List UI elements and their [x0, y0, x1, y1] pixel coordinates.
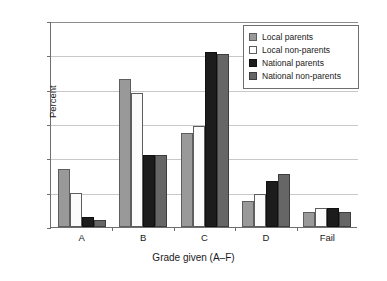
x-tick-mark: [235, 227, 236, 231]
legend-label: Local parents: [262, 33, 313, 42]
y-tick-mark: [47, 228, 51, 229]
bar-group: [112, 21, 173, 227]
bar: [217, 54, 229, 227]
x-tick-mark: [297, 227, 298, 231]
legend-item: National non-parents: [249, 70, 353, 82]
legend-swatch-icon: [249, 33, 257, 41]
chart-legend: Local parentsLocal non-parentsNational p…: [243, 25, 359, 89]
legend-item: National parents: [249, 57, 353, 69]
legend-label: National parents: [262, 59, 324, 68]
x-tick-mark: [112, 227, 113, 231]
x-tick-label: D: [236, 232, 296, 243]
x-axis-title: Grade given (A–F): [0, 252, 387, 263]
x-tick-label: Fail: [297, 232, 357, 243]
bar: [278, 174, 290, 227]
bar: [205, 52, 217, 227]
bar: [143, 155, 155, 227]
x-tick-label: A: [52, 232, 112, 243]
bar: [242, 201, 254, 227]
bar: [315, 208, 327, 227]
legend-item: Local non-parents: [249, 44, 353, 56]
x-tick-label: B: [113, 232, 173, 243]
legend-swatch-icon: [249, 72, 257, 80]
bar: [254, 194, 266, 227]
bar: [303, 212, 315, 227]
bar: [155, 155, 167, 227]
bar: [70, 193, 82, 227]
bar: [94, 220, 106, 227]
bar-group: [51, 21, 112, 227]
legend-item: Local parents: [249, 31, 353, 43]
bar: [266, 181, 278, 227]
bar: [58, 169, 70, 227]
bar: [119, 79, 131, 227]
legend-swatch-icon: [249, 46, 257, 54]
bar-chart: 0102030405060 Percent ABCDFail Grade giv…: [0, 0, 387, 281]
bar-group: [174, 21, 235, 227]
bar: [193, 126, 205, 227]
legend-label: National non-parents: [262, 72, 341, 81]
bar: [82, 217, 94, 227]
bar: [131, 93, 143, 227]
bar: [181, 133, 193, 227]
legend-swatch-icon: [249, 59, 257, 67]
x-tick-mark: [174, 227, 175, 231]
bar: [327, 208, 339, 227]
legend-label: Local non-parents: [262, 46, 330, 55]
bar: [339, 212, 351, 227]
x-tick-label: C: [175, 232, 235, 243]
